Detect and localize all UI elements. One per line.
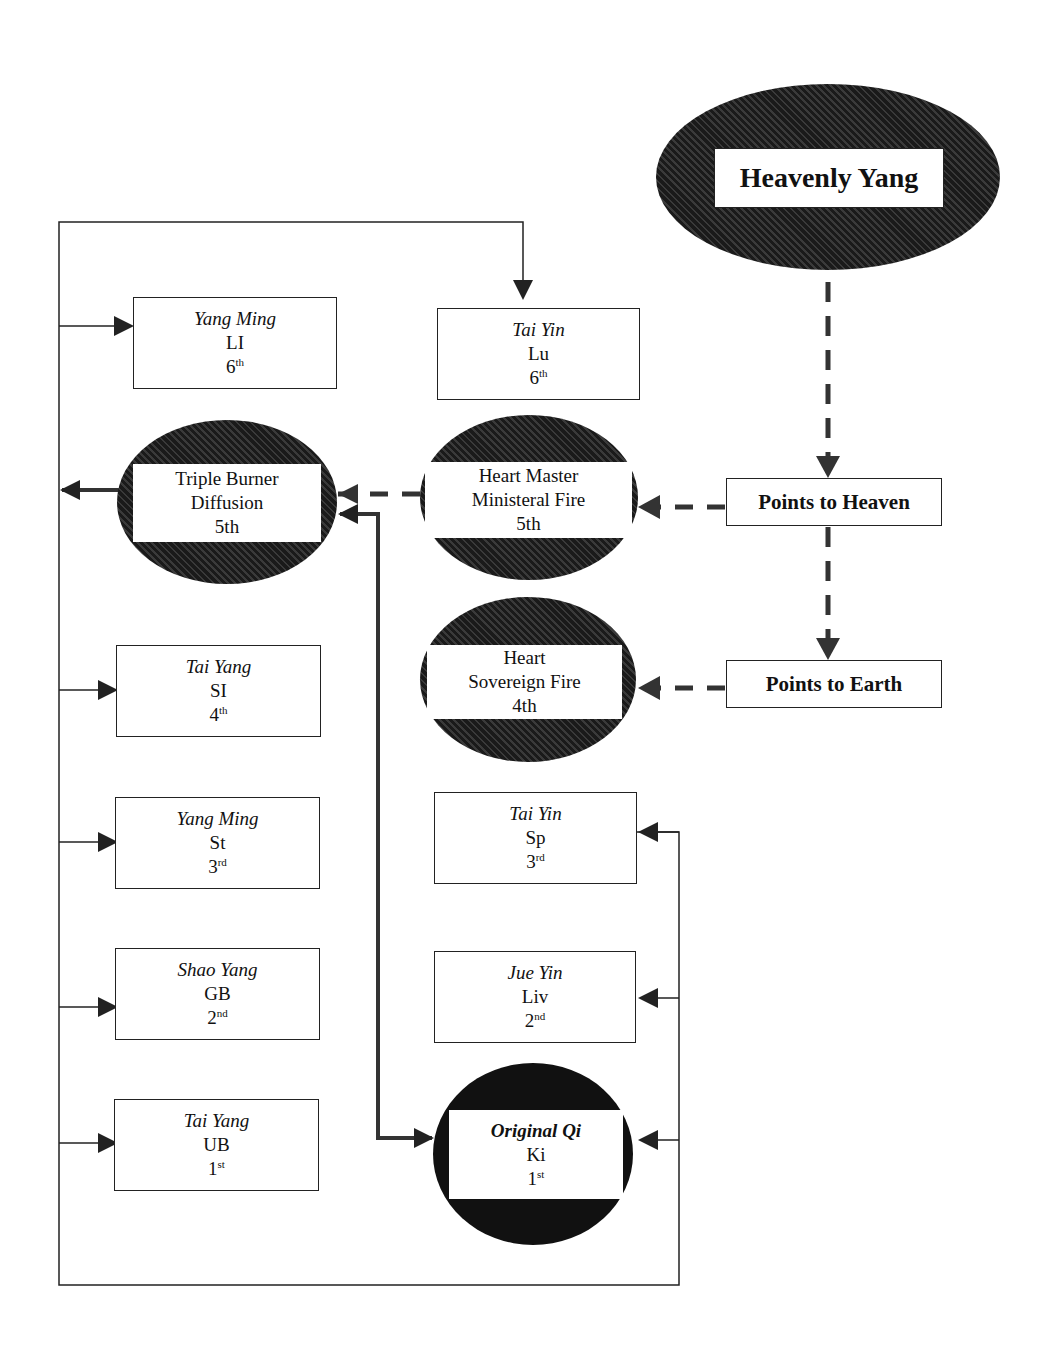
yin-box-sp: Tai Yin Sp 3rd <box>434 792 637 884</box>
yang-box-st: Yang Ming St 3rd <box>115 797 320 889</box>
order-number: 3rd <box>526 850 545 874</box>
channel-name: Yang Ming <box>194 307 276 331</box>
order-number: 2nd <box>207 1006 228 1030</box>
organ-name: GB <box>204 982 230 1006</box>
heavenly-yang-label: Heavenly Yang <box>714 148 944 208</box>
triple-burner-label: Triple BurnerDiffusion5th <box>133 464 321 542</box>
yang-box-si: Tai Yang SI 4th <box>116 645 321 737</box>
points-to-heaven-box: Points to Heaven <box>726 478 942 526</box>
organ-name: Lu <box>528 342 549 366</box>
order-number: 3rd <box>208 855 227 879</box>
points-to-earth-box: Points to Earth <box>726 660 942 708</box>
yang-box-li: Yang Ming LI 6th <box>133 297 337 389</box>
organ-name: UB <box>203 1133 229 1157</box>
yang-box-gb: Shao Yang GB 2nd <box>115 948 320 1040</box>
organ-name: Sp <box>525 826 545 850</box>
channel-name: Yang Ming <box>176 807 258 831</box>
order-number: 1st <box>208 1157 225 1181</box>
channel-name: Tai Yin <box>512 318 564 342</box>
organ-name: SI <box>210 679 227 703</box>
channel-name: Shao Yang <box>177 958 257 982</box>
organ-name: St <box>210 831 226 855</box>
original-qi-label: Original Qi Ki 1st <box>449 1110 623 1199</box>
channel-name: Tai Yin <box>509 802 561 826</box>
channel-name: Tai Yang <box>186 655 252 679</box>
organ-name: Liv <box>522 985 548 1009</box>
order-number: 6th <box>529 366 547 390</box>
yang-box-ub: Tai Yang UB 1st <box>114 1099 319 1191</box>
yin-box-lu: Tai Yin Lu 6th <box>437 308 640 400</box>
order-number: 6th <box>226 355 244 379</box>
order-number: 4th <box>209 703 227 727</box>
order-number: 2nd <box>525 1009 546 1033</box>
channel-name: Jue Yin <box>507 961 562 985</box>
channel-name: Tai Yang <box>184 1109 250 1133</box>
organ-name: LI <box>226 331 244 355</box>
heart-label: HeartSovereign Fire4th <box>427 645 622 719</box>
yin-box-liv: Jue Yin Liv 2nd <box>434 951 636 1043</box>
heart-master-label: Heart MasterMinisteral Fire5th <box>425 462 632 538</box>
